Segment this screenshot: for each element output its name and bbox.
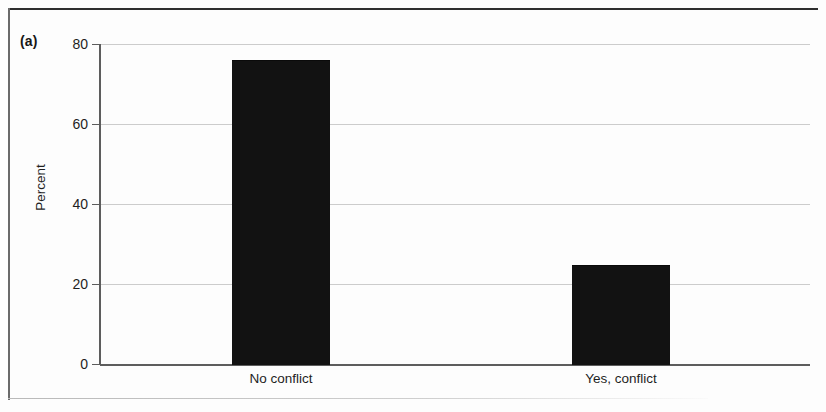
gridline-40 <box>100 204 810 205</box>
y-tick-label-0: 0 <box>48 357 88 371</box>
y-tick-mark-0 <box>92 364 100 365</box>
gridline-20 <box>100 284 810 285</box>
x-axis-line <box>100 364 810 366</box>
bar-yes-conflict[interactable] <box>572 265 670 365</box>
y-axis-title: Percent <box>33 138 48 238</box>
x-tick-label-no-conflict: No conflict <box>181 371 381 386</box>
bar-chart-plot-area: 80 60 40 20 0 Percent No conflict Yes, c… <box>0 0 826 412</box>
y-tick-label-60: 60 <box>48 117 88 131</box>
gridline-80 <box>100 44 810 45</box>
gridline-60 <box>100 124 810 125</box>
figure-panel: (a) 80 60 40 20 0 Percent No conflict Ye… <box>0 0 826 412</box>
y-tick-label-40: 40 <box>48 197 88 211</box>
bar-no-conflict[interactable] <box>232 60 330 365</box>
y-tick-label-80: 80 <box>48 37 88 51</box>
y-tick-mark-80 <box>92 44 100 45</box>
y-tick-label-20: 20 <box>48 277 88 291</box>
x-tick-label-yes-conflict: Yes, conflict <box>521 371 721 386</box>
y-tick-mark-60 <box>92 124 100 125</box>
y-tick-mark-20 <box>92 284 100 285</box>
y-tick-mark-40 <box>92 204 100 205</box>
